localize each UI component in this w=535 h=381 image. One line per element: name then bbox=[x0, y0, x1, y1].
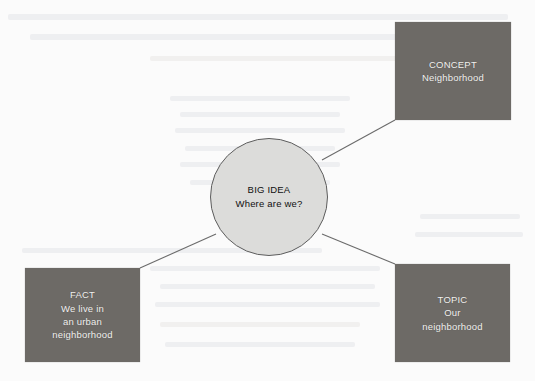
node-fact-content: FACT We live in an urban neighborhood bbox=[52, 288, 113, 342]
node-topic-content: TOPIC Our neighborhood bbox=[422, 293, 483, 333]
connector-center-to-concept bbox=[322, 120, 395, 160]
node-fact-text-line-2: an urban bbox=[52, 315, 113, 328]
node-topic-label: TOPIC bbox=[422, 293, 483, 306]
node-fact-text-line-1: We live in bbox=[52, 302, 113, 315]
node-box-topic[interactable]: TOPIC Our neighborhood bbox=[395, 264, 510, 362]
node-fact-text-line-3: neighborhood bbox=[52, 328, 113, 341]
diagram-page: BIG IDEA Where are we? CONCEPT Neighborh… bbox=[0, 0, 535, 381]
node-concept-text: Neighborhood bbox=[422, 71, 484, 84]
node-topic-text-line-1: Our bbox=[422, 306, 483, 319]
node-concept-label: CONCEPT bbox=[422, 58, 484, 71]
node-concept-content: CONCEPT Neighborhood bbox=[422, 58, 484, 85]
connector-center-to-fact bbox=[140, 234, 216, 268]
node-topic-text-line-2: neighborhood bbox=[422, 320, 483, 333]
center-node-label: BIG IDEA bbox=[235, 183, 302, 197]
node-box-fact[interactable]: FACT We live in an urban neighborhood bbox=[25, 268, 140, 362]
node-fact-label: FACT bbox=[52, 288, 113, 301]
node-box-concept[interactable]: CONCEPT Neighborhood bbox=[395, 22, 511, 120]
center-node-content: BIG IDEA Where are we? bbox=[235, 183, 302, 211]
center-node-text: Where are we? bbox=[235, 197, 302, 211]
connector-center-to-topic bbox=[322, 234, 395, 264]
center-node-big-idea[interactable]: BIG IDEA Where are we? bbox=[210, 138, 328, 256]
